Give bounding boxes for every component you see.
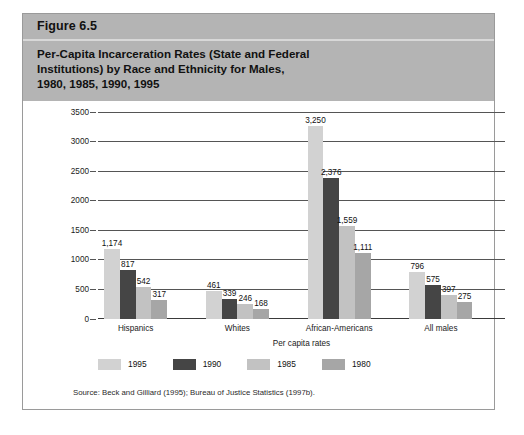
y-axis-tick-label: 0 bbox=[84, 314, 89, 323]
bar-value-label: 817 bbox=[121, 260, 135, 269]
bar-fill bbox=[441, 295, 457, 318]
y-axis-tick-mark bbox=[90, 319, 96, 320]
legend-label: 1995 bbox=[128, 359, 147, 369]
bar[interactable]: 1,174 bbox=[104, 249, 120, 318]
figure-header: Figure 6.5 bbox=[23, 14, 494, 39]
bar-group-bars: 796575397275 bbox=[409, 112, 472, 319]
bar[interactable]: 275 bbox=[457, 302, 473, 318]
legend-swatch bbox=[322, 359, 345, 370]
legend-swatch bbox=[173, 359, 196, 370]
bar[interactable]: 817 bbox=[120, 270, 136, 318]
legend-label: 1980 bbox=[352, 359, 371, 369]
legend-item[interactable]: 1980 bbox=[322, 359, 371, 370]
bar-value-label: 1,174 bbox=[102, 239, 123, 248]
bar-group: 796575397275All males bbox=[409, 112, 472, 319]
bar-value-label: 3,250 bbox=[305, 116, 326, 125]
y-axis-tick-mark bbox=[90, 141, 96, 142]
y-axis-tick-label: 1500 bbox=[71, 225, 89, 234]
legend-label: 1985 bbox=[277, 359, 296, 369]
bar-fill bbox=[457, 302, 473, 318]
bar[interactable]: 1,111 bbox=[355, 253, 371, 319]
bar[interactable]: 3,250 bbox=[308, 126, 324, 318]
bar[interactable]: 575 bbox=[425, 285, 441, 319]
y-axis-tick-mark bbox=[90, 112, 96, 113]
y-axis-tick-label: 3500 bbox=[71, 107, 89, 116]
bar-value-label: 461 bbox=[207, 281, 221, 290]
bar-value-label: 542 bbox=[137, 277, 151, 286]
legend-item[interactable]: 1990 bbox=[173, 359, 222, 370]
bar-fill bbox=[104, 249, 120, 318]
legend-swatch bbox=[247, 359, 270, 370]
bar-fill bbox=[339, 226, 355, 318]
bar-value-label: 168 bbox=[254, 299, 268, 308]
bar[interactable]: 168 bbox=[253, 309, 269, 319]
bar[interactable]: 542 bbox=[136, 287, 152, 319]
bar-fill bbox=[151, 300, 167, 319]
bar-group-bars: 461339246168 bbox=[206, 112, 269, 319]
bar[interactable]: 461 bbox=[206, 291, 222, 318]
bar-fill bbox=[323, 178, 339, 319]
bar-value-label: 575 bbox=[426, 275, 440, 284]
x-axis-category-label: All males bbox=[424, 324, 457, 333]
bar[interactable]: 317 bbox=[151, 300, 167, 319]
y-axis-tick-mark bbox=[90, 200, 96, 201]
y-axis-tick-label: 3000 bbox=[71, 137, 89, 146]
plot-area: 05001000150020002500300035001,1748175423… bbox=[98, 112, 505, 319]
bar-value-label: 2,376 bbox=[321, 168, 342, 177]
figure-title-line-1: Per-Capita Incarceration Rates (State an… bbox=[37, 46, 482, 61]
bar-value-label: 1,559 bbox=[337, 216, 358, 225]
y-axis-tick-mark bbox=[90, 171, 96, 172]
y-axis-tick-mark bbox=[90, 289, 96, 290]
bar-value-label: 339 bbox=[223, 289, 237, 298]
bar-value-label: 317 bbox=[152, 290, 166, 299]
y-axis-tick-label: 2000 bbox=[71, 196, 89, 205]
bar-group: 3,2502,3761,5591,111African-Americans bbox=[308, 112, 371, 319]
bar-fill bbox=[237, 304, 253, 319]
bar-fill bbox=[136, 287, 152, 319]
bar-value-label: 246 bbox=[238, 294, 252, 303]
figure-title: Per-Capita Incarceration Rates (State an… bbox=[23, 41, 494, 101]
y-axis-tick-label: 1000 bbox=[71, 255, 89, 264]
figure-title-line-3: 1980, 1985, 1990, 1995 bbox=[37, 76, 482, 91]
y-axis-tick-label: 500 bbox=[75, 285, 89, 294]
figure-title-line-2: Institutions) by Race and Ethnicity for … bbox=[37, 61, 482, 76]
bar-fill bbox=[355, 253, 371, 319]
bar-group: 461339246168Whites bbox=[206, 112, 269, 319]
source-note: Source: Beck and Gilliard (1995); Bureau… bbox=[73, 388, 315, 397]
bar-fill bbox=[409, 272, 425, 319]
x-axis-title: Per capita rates bbox=[98, 339, 505, 348]
bar[interactable]: 246 bbox=[237, 304, 253, 319]
bar[interactable]: 796 bbox=[409, 272, 425, 319]
figure-number: Figure 6.5 bbox=[37, 14, 494, 39]
bar-group: 1,174817542317Hispanics bbox=[104, 112, 167, 319]
y-axis-tick-mark bbox=[90, 230, 96, 231]
y-axis-tick-mark bbox=[90, 259, 96, 260]
figure-panel: Figure 6.5 Per-Capita Incarceration Rate… bbox=[22, 13, 495, 410]
bar-group-bars: 1,174817542317 bbox=[104, 112, 167, 319]
bar-fill bbox=[206, 291, 222, 318]
bar[interactable]: 339 bbox=[222, 299, 238, 319]
bar-value-label: 1,111 bbox=[353, 243, 372, 252]
bar-fill bbox=[222, 299, 238, 319]
x-axis-category-label: African-Americans bbox=[306, 324, 373, 333]
bar[interactable]: 397 bbox=[441, 295, 457, 318]
bar-value-label: 275 bbox=[458, 292, 472, 301]
bar-value-label: 397 bbox=[442, 285, 456, 294]
bar-fill bbox=[425, 285, 441, 319]
x-axis-category-label: Hispanics bbox=[118, 324, 154, 333]
bar-fill bbox=[308, 126, 324, 318]
bar[interactable]: 2,376 bbox=[323, 178, 339, 319]
legend-label: 1990 bbox=[203, 359, 222, 369]
legend-item[interactable]: 1995 bbox=[98, 359, 147, 370]
bar-fill bbox=[253, 309, 269, 319]
chart-body: 05001000150020002500300035001,1748175423… bbox=[23, 101, 494, 401]
y-axis-tick-label: 2500 bbox=[71, 166, 89, 175]
bar-fill bbox=[120, 270, 136, 318]
bar[interactable]: 1,559 bbox=[339, 226, 355, 318]
legend-item[interactable]: 1985 bbox=[247, 359, 296, 370]
x-axis-category-label: Whites bbox=[225, 324, 250, 333]
bar-value-label: 796 bbox=[410, 262, 424, 271]
legend-swatch bbox=[98, 359, 121, 370]
bar-group-bars: 3,2502,3761,5591,111 bbox=[308, 112, 371, 319]
chart-legend: 1995199019851980 bbox=[98, 359, 397, 370]
